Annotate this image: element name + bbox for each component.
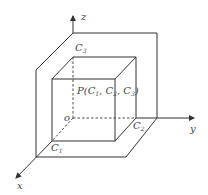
z-axis-label: z — [80, 11, 87, 22]
origin-label: o — [64, 112, 70, 123]
y-axis-label: y — [189, 123, 196, 134]
cube — [52, 57, 136, 141]
cube-top-face — [52, 57, 136, 79]
x-axis-label: x — [17, 180, 23, 191]
point-p-label: P(C1, C2, C3) — [76, 85, 139, 97]
c3-label: C3 — [75, 42, 87, 54]
axes — [16, 16, 194, 178]
c2-label: C2 — [133, 120, 145, 132]
c1-label: C1 — [51, 142, 62, 154]
x-axis — [16, 141, 52, 178]
coordinate-diagram: z y x o C3 C2 C1 P(C1, C2, C3) — [0, 0, 208, 195]
